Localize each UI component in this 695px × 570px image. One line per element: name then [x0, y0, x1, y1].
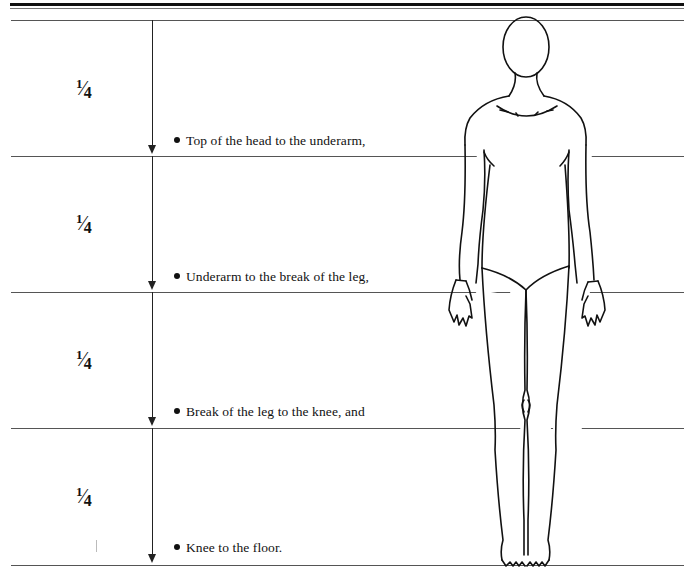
female-figure-drawing	[0, 0, 695, 570]
head	[503, 17, 549, 77]
